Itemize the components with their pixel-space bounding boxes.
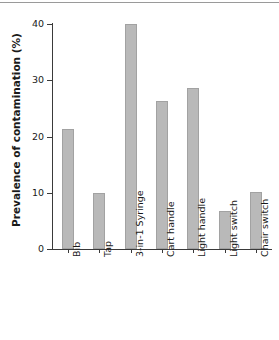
x-axis-tick — [256, 249, 257, 253]
x-axis-tick — [99, 249, 100, 253]
bar — [62, 129, 74, 249]
x-axis-tick-label: 3-in-1 Syringe — [135, 190, 145, 257]
x-axis-tick-label: Tap — [103, 241, 113, 257]
y-axis-tick — [47, 193, 52, 194]
y-axis-tick-label: 0 — [4, 244, 44, 254]
top-rule-divider — [0, 2, 279, 3]
y-axis-tick-label: 10 — [4, 188, 44, 198]
y-axis-tick-label: 30 — [4, 75, 44, 85]
x-axis-tick-label: Bib — [72, 242, 82, 257]
bar-chart-figure: Prevalence of contamination (%) 01020304… — [0, 0, 279, 340]
x-axis-tick — [131, 249, 132, 253]
x-axis-tick — [162, 249, 163, 253]
y-axis-tick-label: 40 — [4, 19, 44, 29]
x-axis-tick-label: Chair switch — [260, 199, 270, 257]
y-axis-tick — [47, 80, 52, 81]
y-axis-title: Prevalence of contamination (%) — [10, 30, 22, 230]
y-axis-tick — [47, 249, 52, 250]
x-axis-tick — [193, 249, 194, 253]
y-axis-line — [52, 23, 53, 250]
y-axis-tick — [47, 24, 52, 25]
y-axis-tick — [47, 137, 52, 138]
x-axis-tick — [68, 249, 69, 253]
x-axis-tick-label: Cart handle — [166, 202, 176, 257]
x-axis-tick-label: Light switch — [229, 200, 239, 257]
x-axis-tick-label: Light handle — [197, 198, 207, 257]
x-axis-tick — [225, 249, 226, 253]
y-axis-tick-label: 20 — [4, 132, 44, 142]
